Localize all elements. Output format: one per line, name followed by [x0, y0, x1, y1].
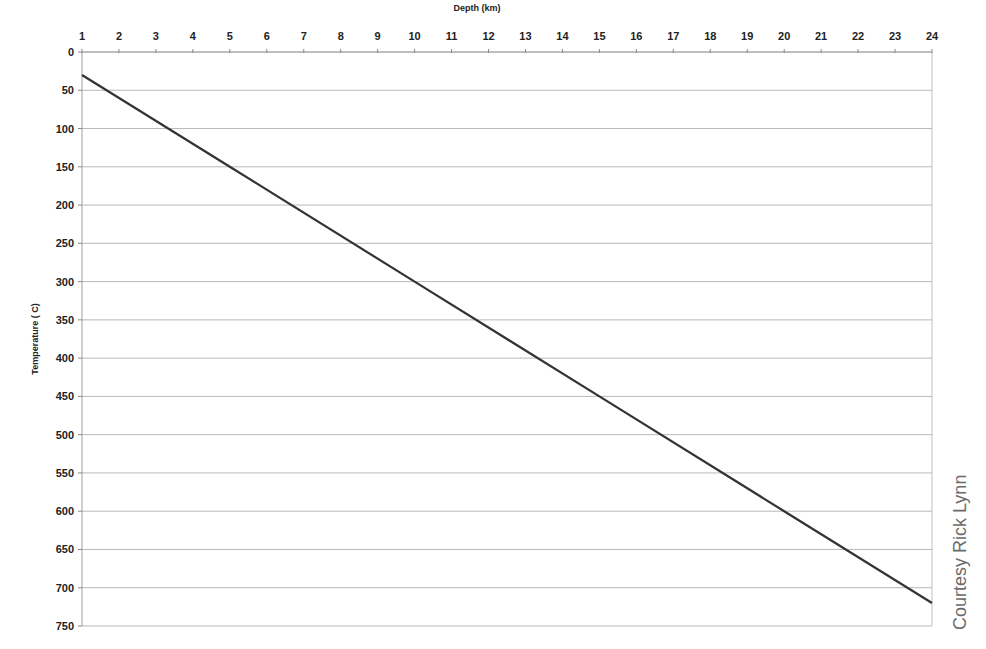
- x-tick-label: 6: [264, 30, 270, 42]
- x-axis-title: Depth (km): [454, 3, 501, 13]
- y-axis-title: Temperature ( C): [30, 303, 40, 374]
- y-tick-label: 250: [56, 237, 74, 249]
- x-tick-label: 13: [519, 30, 531, 42]
- x-tick-label: 20: [778, 30, 790, 42]
- x-tick-label: 19: [741, 30, 753, 42]
- x-tick-label: 8: [338, 30, 344, 42]
- y-axis-ticks: 0501001502002503003504004505005506006507…: [56, 46, 82, 632]
- x-tick-label: 16: [630, 30, 642, 42]
- x-tick-label: 12: [482, 30, 494, 42]
- y-tick-label: 500: [56, 429, 74, 441]
- y-tick-label: 350: [56, 314, 74, 326]
- x-tick-label: 14: [556, 30, 569, 42]
- x-tick-label: 9: [375, 30, 381, 42]
- x-tick-label: 17: [667, 30, 679, 42]
- x-tick-label: 11: [446, 30, 458, 42]
- y-tick-label: 750: [56, 620, 74, 632]
- x-tick-label: 24: [926, 30, 939, 42]
- y-tick-label: 550: [56, 467, 74, 479]
- x-tick-label: 2: [116, 30, 122, 42]
- y-tick-label: 600: [56, 505, 74, 517]
- x-tick-label: 5: [227, 30, 233, 42]
- x-tick-label: 23: [889, 30, 901, 42]
- x-tick-label: 21: [815, 30, 827, 42]
- y-tick-label: 50: [62, 84, 74, 96]
- y-tick-label: 200: [56, 199, 74, 211]
- x-tick-label: 22: [852, 30, 864, 42]
- y-tick-label: 400: [56, 352, 74, 364]
- x-tick-label: 1: [79, 30, 85, 42]
- y-tick-label: 300: [56, 276, 74, 288]
- x-tick-label: 10: [408, 30, 420, 42]
- y-tick-label: 150: [56, 161, 74, 173]
- photo-credit: Courtesy Rick Lynn: [950, 475, 971, 630]
- x-tick-label: 15: [593, 30, 605, 42]
- chart: 123456789101112131415161718192021222324 …: [0, 0, 986, 649]
- x-tick-label: 3: [153, 30, 159, 42]
- x-axis-ticks: 123456789101112131415161718192021222324: [79, 30, 939, 53]
- y-tick-label: 0: [68, 46, 74, 58]
- x-tick-label: 7: [301, 30, 307, 42]
- y-tick-label: 100: [56, 123, 74, 135]
- temperature-line: [82, 75, 932, 603]
- y-tick-label: 650: [56, 543, 74, 555]
- x-tick-label: 4: [190, 30, 197, 42]
- y-tick-label: 700: [56, 582, 74, 594]
- x-tick-label: 18: [704, 30, 716, 42]
- y-tick-label: 450: [56, 390, 74, 402]
